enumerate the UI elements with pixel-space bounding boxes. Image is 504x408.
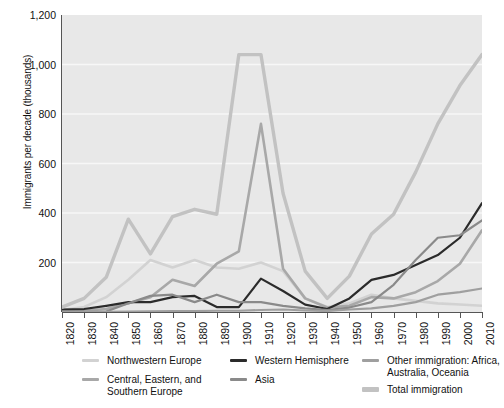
y-tick-label: 400 xyxy=(12,208,56,218)
y-axis-tick-labels: 2004006008001,0001,200 xyxy=(8,0,56,320)
x-tick-mark xyxy=(150,313,151,318)
x-tick-mark xyxy=(261,313,262,318)
y-tick-label: 1,000 xyxy=(12,60,56,70)
x-tick-mark xyxy=(62,313,63,318)
x-tick-mark xyxy=(106,313,107,318)
x-tick-mark xyxy=(195,313,196,318)
x-tick-mark xyxy=(283,313,284,318)
x-tick-mark xyxy=(371,313,372,318)
legend-label: Central, Eastern, and Southern Europe xyxy=(107,374,232,397)
plot-background xyxy=(62,15,482,312)
legend-item[interactable]: Northwestern Europe xyxy=(82,355,232,368)
x-tick-mark xyxy=(239,313,240,318)
x-tick-mark xyxy=(482,313,483,318)
x-tick-mark xyxy=(173,313,174,318)
legend-item[interactable]: Central, Eastern, and Southern Europe xyxy=(82,374,232,397)
legend-item[interactable]: Western Hemisphere xyxy=(230,355,355,368)
x-axis-line xyxy=(62,312,483,313)
x-tick-mark xyxy=(438,313,439,318)
legend-label: Western Hemisphere xyxy=(255,355,355,367)
legend-item[interactable]: Total immigration xyxy=(362,384,504,397)
legend-item[interactable]: Asia xyxy=(230,374,355,387)
y-tick-label: 1,200 xyxy=(12,10,56,20)
x-tick-mark xyxy=(416,313,417,318)
legend-item[interactable]: Other immigration: Africa, Australia, Oc… xyxy=(362,355,504,378)
legend-swatch-icon xyxy=(230,378,247,381)
y-tick-label: 600 xyxy=(12,159,56,169)
legend-swatch-icon xyxy=(362,359,379,362)
plot-area xyxy=(62,15,482,312)
x-tick-mark xyxy=(460,313,461,318)
x-tick-mark xyxy=(128,313,129,318)
x-tick-mark xyxy=(305,313,306,318)
legend-column: Northwestern EuropeCentral, Eastern, and… xyxy=(82,355,232,403)
chart-legend: Northwestern EuropeCentral, Eastern, and… xyxy=(62,355,486,405)
legend-swatch-icon xyxy=(82,378,99,381)
x-tick-mark xyxy=(394,313,395,318)
x-tick-mark xyxy=(217,313,218,318)
series-canvas xyxy=(62,15,482,312)
legend-swatch-icon xyxy=(230,359,247,362)
series-line-5 xyxy=(62,55,482,307)
y-axis-line xyxy=(61,15,62,312)
legend-column: Other immigration: Africa, Australia, Oc… xyxy=(362,355,504,403)
legend-column: Western HemisphereAsia xyxy=(230,355,355,393)
x-tick-mark xyxy=(349,313,350,318)
legend-swatch-icon xyxy=(362,387,379,392)
legend-label: Other immigration: Africa, Australia, Oc… xyxy=(387,355,504,378)
legend-label: Total immigration xyxy=(387,384,504,396)
x-tick-mark xyxy=(84,313,85,318)
legend-label: Northwestern Europe xyxy=(107,355,232,367)
legend-label: Asia xyxy=(255,374,355,386)
y-tick-label: 200 xyxy=(12,258,56,268)
y-tick-label: 800 xyxy=(12,109,56,119)
legend-swatch-icon xyxy=(82,359,99,362)
x-tick-mark xyxy=(327,313,328,318)
